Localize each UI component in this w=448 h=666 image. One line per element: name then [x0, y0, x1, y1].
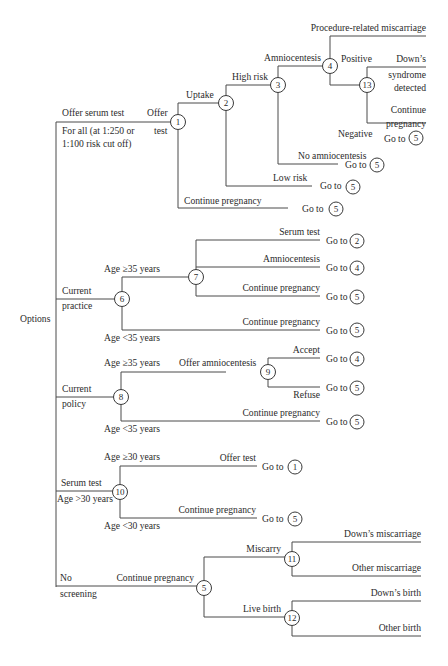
node-number: 2: [224, 98, 229, 108]
goto-target: 5: [355, 325, 360, 335]
option-current-practice: practice: [62, 300, 92, 311]
goto-target: 2: [355, 236, 360, 246]
goto-label: Go to: [326, 353, 348, 364]
branch-label: Continue pregnancy: [242, 407, 320, 418]
branch-label: Negative: [338, 128, 373, 139]
branch-label: Procedure-related miscarriage: [311, 22, 426, 33]
branch-label: Continue: [391, 104, 426, 115]
option-current-policy: policy: [62, 398, 86, 409]
goto-target: 5: [351, 182, 356, 192]
node-number: 10: [116, 487, 126, 497]
branch-label: Age ≥35 years: [104, 357, 160, 368]
branch-label: Offer test: [220, 452, 257, 463]
branch-label: Age <35 years: [104, 423, 160, 434]
branch-label: Continue pregnancy: [242, 282, 320, 293]
branch-label: Down’s birth: [371, 587, 422, 598]
goto-label: Go to: [262, 461, 284, 472]
branch-label: Uptake: [186, 89, 214, 100]
branch-label: Continue pregnancy: [116, 572, 194, 583]
branch-label: Other miscarriage: [352, 562, 421, 573]
goto-label: Go to: [302, 203, 324, 214]
node-number: 13: [363, 80, 373, 90]
decision-tree: Options Offer serum test For all (at 1:2…: [0, 0, 448, 666]
goto-label: Go to: [326, 325, 348, 336]
option-sublabel: For all (at 1:250 or: [62, 125, 135, 137]
branch-label: Accept: [293, 344, 320, 355]
node-number: 8: [119, 392, 124, 402]
goto-label: Go to: [326, 382, 348, 393]
option-sublabel: 1:100 risk cut off): [62, 138, 131, 150]
goto-label: Go to: [320, 180, 342, 191]
goto-target: 5: [355, 383, 360, 393]
option-no-screening: screening: [60, 588, 97, 599]
goto-target: 1: [293, 462, 298, 472]
branch-label: Low risk: [273, 172, 308, 183]
branch-label: Other birth: [379, 622, 422, 633]
goto-target: 4: [355, 263, 360, 273]
node-number: 5: [202, 583, 207, 593]
goto-target: 5: [414, 133, 419, 143]
branch-label: Age <30 years: [104, 520, 160, 531]
branch-label: Refuse: [293, 389, 320, 400]
option-current-practice: Current: [62, 285, 92, 296]
goto-label: Go to: [326, 291, 348, 302]
branch-label: Continue pregnancy: [178, 504, 256, 515]
goto-target: 5: [334, 204, 339, 214]
branch-label: High risk: [232, 71, 268, 82]
node-number: 7: [194, 272, 199, 282]
goto-label: Go to: [326, 416, 348, 427]
branch-label: Offer amniocentesis: [179, 357, 257, 368]
option-current-policy: Current: [62, 383, 92, 394]
goto-target: 5: [355, 292, 360, 302]
branch-label: Age ≥30 years: [104, 451, 160, 462]
branch-label: Live birth: [243, 603, 281, 614]
branch-label: detected: [394, 82, 426, 93]
branch-label: Serum test: [279, 226, 320, 237]
node-number: 4: [328, 61, 333, 71]
goto-target: 5: [355, 417, 360, 427]
branch-label: test: [154, 125, 168, 136]
branch-label: Down’s: [396, 53, 426, 64]
goto-target: 5: [293, 514, 298, 524]
goto-label: Go to: [384, 133, 406, 144]
option-serum-test: Serum test: [61, 477, 102, 488]
node-number: 3: [276, 80, 281, 90]
branch-label: Miscarry: [246, 543, 281, 554]
branch-label: Amniocentesis: [263, 253, 320, 264]
root-label: Options: [20, 313, 51, 324]
goto-label: Go to: [326, 235, 348, 246]
branch-label: Continue pregnancy: [184, 195, 262, 206]
branch-label: Down’s miscarriage: [344, 528, 421, 539]
option-offer-serum-test: Offer serum test: [62, 107, 124, 118]
node-number: 11: [288, 554, 297, 564]
option-sublabel: Age >30 years: [57, 493, 113, 504]
goto-label: Go to: [345, 159, 367, 170]
branch-label: syndrome: [388, 69, 426, 80]
branch-label: Continue pregnancy: [242, 316, 320, 327]
node-number: 12: [288, 613, 297, 623]
option-no-screening: No: [60, 572, 72, 583]
node-number: 1: [176, 117, 181, 127]
goto-target: 5: [375, 160, 380, 170]
branch-label: pregnancy: [386, 118, 426, 129]
node-number: 6: [120, 294, 125, 304]
branch-label: Age <35 years: [104, 332, 160, 343]
goto-target: 4: [355, 354, 360, 364]
goto-label: Go to: [262, 513, 284, 524]
branch-label: Positive: [341, 53, 372, 64]
branch-label: Age ≥35 years: [104, 263, 160, 274]
branch-label: Offer: [147, 107, 168, 118]
branch-label: Amniocentesis: [264, 52, 321, 63]
node-number: 9: [266, 367, 271, 377]
goto-label: Go to: [326, 262, 348, 273]
